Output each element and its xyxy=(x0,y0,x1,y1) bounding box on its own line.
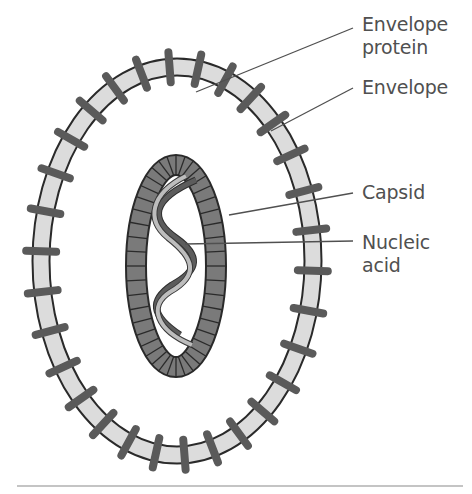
nucleic-acid-helix xyxy=(154,176,196,345)
label-capsid: Capsid xyxy=(362,181,425,204)
label-nucleic-acid: Nucleic acid xyxy=(362,231,430,277)
envelope-proteins xyxy=(26,52,328,469)
label-envelope: Envelope xyxy=(362,76,448,99)
label-envelope-protein: Envelope protein xyxy=(362,13,448,59)
